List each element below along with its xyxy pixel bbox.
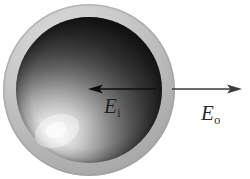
dielectric-sphere-field-figure: Ei Eo xyxy=(0,0,250,179)
outer-field-label: Eo xyxy=(201,103,220,126)
outer-field-subscript: o xyxy=(214,113,221,127)
outer-field-vector xyxy=(172,84,242,93)
inner-field-label: Ei xyxy=(104,96,121,119)
outer-field-symbol: E xyxy=(201,101,214,125)
inner-field-symbol: E xyxy=(104,94,117,118)
figure-canvas xyxy=(0,0,250,179)
inner-field-subscript: i xyxy=(117,106,121,120)
